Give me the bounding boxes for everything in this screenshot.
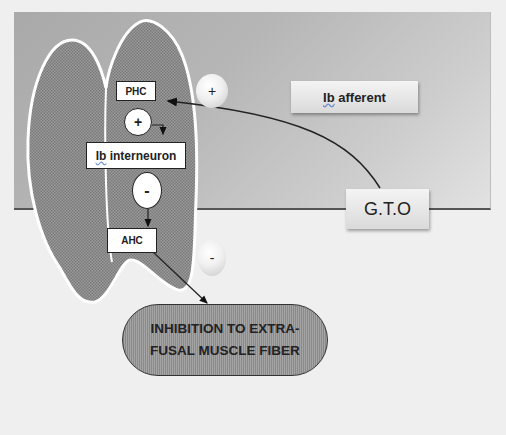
inhibitory-sign: - [210,250,215,266]
excitatory-sign: + [208,83,216,99]
inhibitory-bubble: - [198,240,226,276]
muscle-inhibition-pill: INHIBITION TO EXTRA- FUSAL MUSCLE FIBER [122,304,328,376]
gto-label: G.T.O [346,189,429,229]
excitatory-bubble: + [196,74,228,108]
excite-sign: + [134,114,142,130]
ib-afferent-prefix: Ib [323,90,335,105]
ib-interneuron-suffix: interneuron [106,149,176,163]
ahc-box: AHC [107,228,157,253]
gto-text: G.T.O [364,199,411,220]
phc-label: PHC [125,86,146,97]
inhibit-sign: - [144,182,149,200]
excite-circle: + [124,108,152,136]
ib-afferent-suffix: afferent [335,90,386,105]
ahc-label: AHC [121,235,143,246]
ib-afferent-label: Ib afferent [291,81,418,113]
inhibition-line-2: FUSAL MUSCLE FIBER [150,340,300,362]
inhibition-line-1: INHIBITION TO EXTRA- [150,318,299,340]
ib-afferent-arrow [168,101,380,188]
ib-interneuron-box: Ib interneuron [86,142,186,169]
inhibit-circle: - [132,172,162,209]
ib-interneuron-prefix: Ib [96,149,107,163]
phc-box: PHC [116,81,156,101]
